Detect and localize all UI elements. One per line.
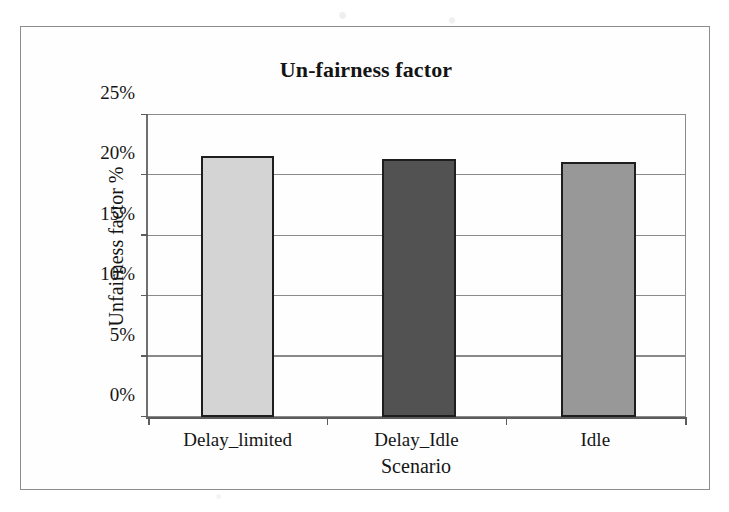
bar-idle[interactable]: [561, 162, 636, 417]
x-category-label-idle: Idle: [581, 429, 611, 451]
x-category-label-delay-idle: Delay_Idle: [374, 429, 458, 451]
gridline: [148, 114, 685, 115]
x-tick-mark: [148, 417, 150, 425]
x-category-label-delay-limited: Delay_limited: [183, 429, 292, 451]
bar-delay-limited[interactable]: [201, 156, 275, 417]
x-tick-mark: [506, 417, 508, 425]
x-tick-mark: [327, 417, 329, 425]
y-tick-mark: [141, 114, 148, 116]
y-tick-mark: [141, 295, 148, 297]
chart-frame: Un-fairness factor Unfairness factor % 0…: [20, 26, 710, 490]
y-tick-mark: [141, 355, 148, 357]
bar-delay-idle[interactable]: [382, 159, 457, 418]
y-tick-label: 20%: [100, 142, 135, 164]
y-tick-mark: [141, 174, 148, 176]
y-tick-mark: [141, 234, 148, 236]
plot-area: 0% 5% 10% 15% 20% 25% Delay_limited Dela…: [146, 114, 686, 419]
x-axis-title: Scenario: [146, 455, 686, 478]
y-tick-label: 25%: [100, 82, 135, 104]
y-tick-label: 0%: [110, 384, 135, 406]
chart-title: Un-fairness factor: [21, 57, 711, 83]
y-tick-mark: [141, 416, 148, 418]
y-tick-label: 10%: [100, 263, 135, 285]
y-tick-label: 15%: [100, 203, 135, 225]
x-tick-mark: [685, 417, 687, 425]
y-tick-label: 5%: [110, 324, 135, 346]
